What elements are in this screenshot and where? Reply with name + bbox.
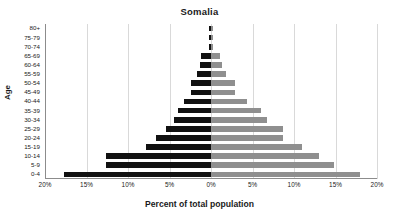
y-tick-label-40-44: 40-44 — [24, 98, 40, 104]
bar-female-30-34 — [211, 117, 267, 123]
y-tick-label-70-74: 70-74 — [24, 44, 40, 50]
bar-male-35-39 — [178, 108, 211, 114]
chart-title: Somalia — [0, 6, 399, 17]
bar-male-45-49 — [191, 90, 211, 96]
bar-row — [45, 99, 377, 105]
x-tick-label-0: 20% — [39, 182, 52, 188]
bar-female-5-9 — [211, 162, 334, 168]
bar-row — [45, 62, 377, 68]
bar-male-55-59 — [197, 71, 211, 77]
bar-row — [45, 108, 377, 114]
bar-male-20-24 — [156, 135, 211, 141]
bar-female-65-69 — [211, 53, 220, 59]
x-tick-label-1: 15% — [80, 182, 93, 188]
bar-female-35-39 — [211, 108, 261, 114]
x-tick-label-7: 15% — [329, 182, 342, 188]
y-axis-line — [45, 24, 46, 179]
bar-row — [45, 144, 377, 150]
bar-female-55-59 — [211, 71, 226, 77]
bar-male-5-9 — [106, 162, 211, 168]
bar-female-70-74 — [211, 44, 213, 50]
bar-row — [45, 35, 377, 41]
bar-row — [45, 117, 377, 123]
x-tick-label-6: 10% — [288, 182, 301, 188]
y-tick-label-50-54: 50-54 — [24, 80, 40, 86]
bars-layer — [45, 24, 377, 179]
bar-row — [45, 135, 377, 141]
y-tick-label-10-14: 10-14 — [24, 153, 40, 159]
bar-row — [45, 44, 377, 50]
bar-female-75-79 — [211, 35, 213, 41]
bar-row — [45, 80, 377, 86]
bar-male-0-4 — [64, 172, 211, 178]
x-axis-line — [45, 178, 377, 179]
bar-female-15-19 — [211, 144, 302, 150]
y-tick-label-60-64: 60-64 — [24, 62, 40, 68]
bar-row — [45, 90, 377, 96]
bar-male-65-69 — [201, 53, 211, 59]
bar-female-80+ — [211, 26, 213, 32]
population-pyramid-chart: Somalia Age 0-45-910-1415-1920-2425-2930… — [0, 0, 399, 222]
y-axis-tick-labels: 0-45-910-1415-1920-2425-2930-3435-3940-4… — [0, 24, 43, 179]
x-axis-tick-labels: 20%15%10%5%0%5%10%15%20% — [45, 182, 377, 194]
bar-female-25-29 — [211, 126, 283, 132]
bar-male-40-44 — [184, 99, 211, 105]
y-tick-label-75-79: 75-79 — [24, 35, 40, 41]
bar-female-20-24 — [211, 135, 283, 141]
bar-female-10-14 — [211, 153, 319, 159]
y-tick-label-20-24: 20-24 — [24, 135, 40, 141]
x-tick-label-4: 0% — [206, 182, 215, 188]
bar-male-15-19 — [146, 144, 211, 150]
bar-male-30-34 — [174, 117, 211, 123]
plot-area — [45, 24, 377, 179]
bar-row — [45, 53, 377, 59]
bar-row — [45, 26, 377, 32]
bar-male-50-54 — [191, 80, 211, 86]
bar-row — [45, 71, 377, 77]
bar-male-25-29 — [166, 126, 211, 132]
bar-female-60-64 — [211, 62, 222, 68]
y-tick-label-65-69: 65-69 — [24, 53, 40, 59]
y-tick-label-80+: 80+ — [30, 25, 41, 31]
bar-row — [45, 153, 377, 159]
y-tick-label-55-59: 55-59 — [24, 71, 40, 77]
y-tick-label-45-49: 45-49 — [24, 89, 40, 95]
x-tick-label-5: 5% — [248, 182, 257, 188]
x-axis-title: Percent of total population — [0, 199, 399, 209]
y-tick-label-0-4: 0-4 — [31, 171, 40, 177]
y-tick-label-25-29: 25-29 — [24, 126, 40, 132]
bar-female-45-49 — [211, 90, 235, 96]
x-tick-label-3: 5% — [165, 182, 174, 188]
bar-female-0-4 — [211, 172, 360, 178]
y-tick-label-30-34: 30-34 — [24, 117, 40, 123]
y-tick-label-15-19: 15-19 — [24, 144, 40, 150]
bar-male-60-64 — [200, 62, 211, 68]
bar-female-40-44 — [211, 99, 247, 105]
bar-row — [45, 172, 377, 178]
gridline-20%-8 — [377, 24, 378, 179]
y-tick-label-35-39: 35-39 — [24, 108, 40, 114]
y-tick-label-5-9: 5-9 — [31, 162, 40, 168]
bar-female-50-54 — [211, 80, 235, 86]
x-tick-label-2: 10% — [122, 182, 135, 188]
bar-row — [45, 126, 377, 132]
bar-male-10-14 — [106, 153, 211, 159]
bar-row — [45, 162, 377, 168]
x-tick-label-8: 20% — [371, 182, 384, 188]
